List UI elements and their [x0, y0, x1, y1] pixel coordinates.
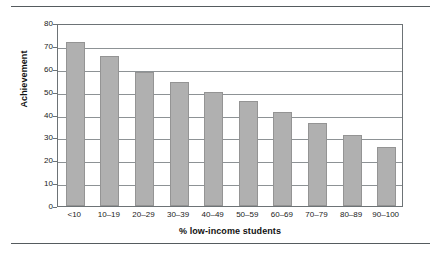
bottom-divider-rule [11, 243, 430, 244]
x-axis-tick-labels: <1010–1920–2930–3940–4950–5960–6970–7980… [57, 210, 403, 224]
y-tick-label: 60 [33, 66, 53, 74]
y-tick-mark [53, 47, 57, 48]
bar [135, 72, 154, 207]
y-tick-mark [53, 161, 57, 162]
y-tick-label: 50 [33, 89, 53, 97]
bar [343, 135, 362, 206]
y-tick-label: 80 [33, 20, 53, 28]
x-tick-label: 90–100 [368, 210, 403, 220]
y-tick-mark [53, 138, 57, 139]
x-tick-label: 60–69 [265, 210, 300, 220]
y-tick-mark [53, 207, 57, 208]
bar [100, 56, 119, 206]
y-axis-tick-labels: 01020304050607080 [31, 24, 53, 207]
bar [66, 42, 85, 206]
x-axis-title: % low-income students [57, 226, 403, 236]
y-tick-mark [53, 116, 57, 117]
x-tick-label: <10 [57, 210, 92, 220]
y-tick-label: 0 [33, 203, 53, 211]
x-tick-label: 50–59 [230, 210, 265, 220]
bar [239, 101, 258, 206]
x-tick-label: 20–29 [126, 210, 161, 220]
x-tick-label: 40–49 [195, 210, 230, 220]
y-tick-mark [53, 93, 57, 94]
bar [308, 123, 327, 206]
x-tick-label: 10–19 [92, 210, 127, 220]
y-tick-label: 30 [33, 134, 53, 142]
x-tick-label: 30–39 [161, 210, 196, 220]
bar [204, 92, 223, 206]
y-tick-mark [53, 24, 57, 25]
gridline [58, 48, 402, 49]
bar [170, 82, 189, 206]
y-tick-label: 20 [33, 157, 53, 165]
y-tick-label: 70 [33, 43, 53, 51]
y-tick-mark [53, 70, 57, 71]
bar [273, 112, 292, 206]
y-tick-mark [53, 184, 57, 185]
y-tick-label: 40 [33, 112, 53, 120]
y-tick-label: 10 [33, 180, 53, 188]
bar [377, 147, 396, 206]
x-tick-label: 80–89 [334, 210, 369, 220]
plot-area [57, 24, 403, 207]
x-tick-label: 70–79 [299, 210, 334, 220]
y-axis-title: Achievement [19, 19, 29, 139]
chart-figure: Achievement 01020304050607080 <1010–1920… [0, 0, 441, 258]
top-divider-rule [11, 6, 430, 7]
